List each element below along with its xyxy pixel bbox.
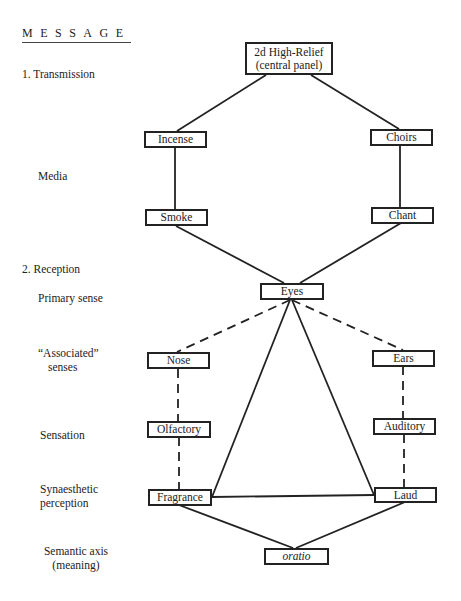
edge-relief-incense bbox=[177, 75, 266, 131]
edge-chant-eyes bbox=[300, 223, 401, 283]
node-oratio: oratio bbox=[264, 548, 329, 565]
edge-fragrance-oratio bbox=[179, 505, 293, 548]
node-high-relief-line2: (central panel) bbox=[256, 59, 323, 72]
dashed-connectors bbox=[177, 300, 404, 489]
node-high-relief: 2d High-Relief (central panel) bbox=[245, 42, 333, 75]
node-smoke: Smoke bbox=[145, 209, 208, 226]
edge-fragrance-laud bbox=[212, 495, 374, 497]
node-incense: Incense bbox=[144, 131, 207, 148]
edge-relief-choirs bbox=[311, 75, 399, 129]
edge-eyes-ears bbox=[292, 300, 403, 350]
node-nose: Nose bbox=[147, 352, 210, 369]
node-olfactory: Olfactory bbox=[147, 421, 211, 438]
node-choirs: Choirs bbox=[370, 129, 433, 146]
node-high-relief-line1: 2d High-Relief bbox=[254, 46, 323, 59]
edge-eyes-laud bbox=[292, 300, 374, 495]
node-fragrance: Fragrance bbox=[148, 489, 212, 506]
node-laud: Laud bbox=[374, 487, 437, 503]
node-ears: Ears bbox=[372, 350, 435, 367]
connector-lines bbox=[0, 0, 461, 601]
node-auditory: Auditory bbox=[373, 418, 436, 435]
edge-eyes-fragrance bbox=[212, 300, 290, 497]
node-chant: Chant bbox=[371, 207, 434, 224]
edge-smoke-eyes bbox=[176, 226, 284, 283]
edge-laud-oratio bbox=[296, 502, 405, 548]
node-eyes: Eyes bbox=[260, 283, 324, 300]
